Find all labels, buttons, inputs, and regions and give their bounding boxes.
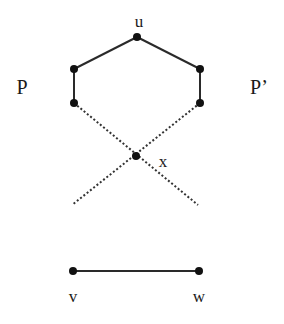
label-w: w bbox=[193, 287, 206, 306]
label-x: x bbox=[159, 152, 168, 171]
label-path-p-prime: P’ bbox=[250, 76, 268, 98]
node-u bbox=[133, 33, 141, 41]
node-p-left-lower bbox=[70, 99, 78, 107]
node-v bbox=[69, 267, 77, 275]
graph-diagram: u x v w P P’ bbox=[0, 0, 284, 324]
node-p-left-upper bbox=[70, 65, 78, 73]
edge-u-p-right bbox=[137, 37, 200, 69]
node-p-right-lower bbox=[196, 99, 204, 107]
edge-u-p-left bbox=[74, 37, 137, 69]
node-p-right-upper bbox=[196, 65, 204, 73]
label-path-p: P bbox=[16, 76, 27, 98]
label-u: u bbox=[135, 12, 144, 31]
node-w bbox=[195, 267, 203, 275]
label-v: v bbox=[69, 287, 78, 306]
node-x bbox=[132, 152, 140, 160]
